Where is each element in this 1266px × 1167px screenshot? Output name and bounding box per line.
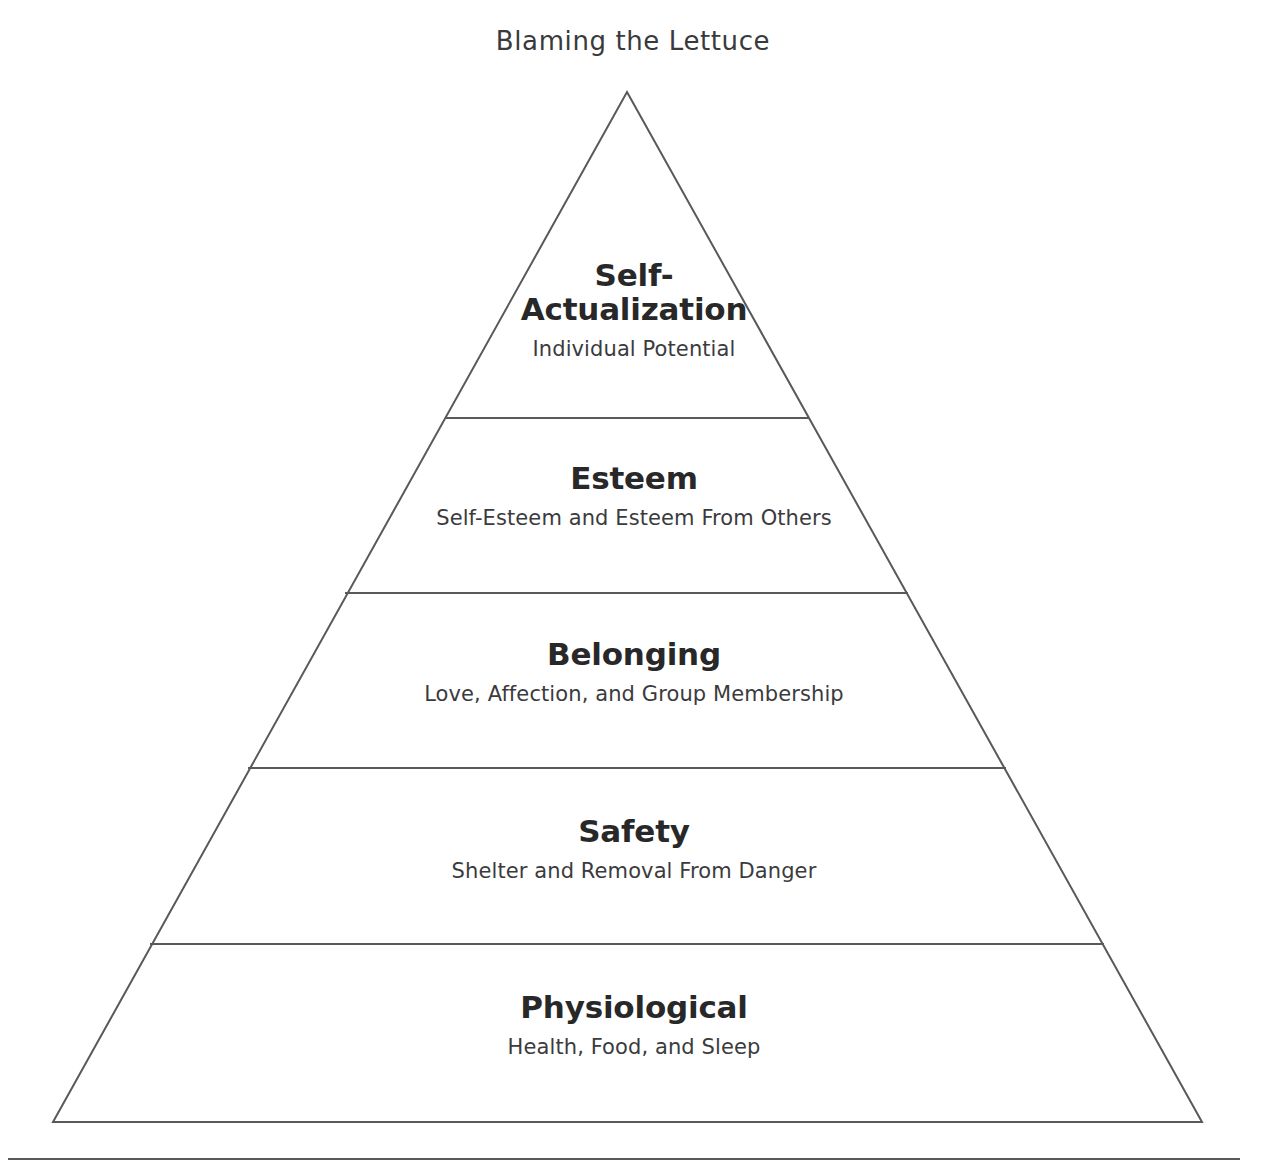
pyramid-level-physiological: Physiological Health, Food, and Sleep <box>0 991 1266 1060</box>
level-subtitle-esteem: Self-Esteem and Esteem From Others <box>1 506 1266 531</box>
pyramid-level-belonging: Belonging Love, Affection, and Group Mem… <box>0 638 1266 707</box>
level-heading-line-2: Actualization <box>1 292 1266 326</box>
pyramid-level-self-actualization: Self- Actualization Individual Potential <box>0 258 1266 362</box>
level-heading-physiological: Physiological <box>1 991 1266 1024</box>
pyramid-level-safety: Safety Shelter and Removal From Danger <box>0 815 1266 884</box>
pyramid-diagram-canvas: Blaming the Lettuce Self- Actualization … <box>0 0 1266 1167</box>
level-subtitle-self-actualization: Individual Potential <box>1 337 1266 362</box>
level-subtitle-physiological: Health, Food, and Sleep <box>1 1035 1266 1060</box>
pyramid-level-esteem: Esteem Self-Esteem and Esteem From Other… <box>0 462 1266 531</box>
level-heading-line-1: Self- <box>1 258 1266 292</box>
level-heading-esteem: Esteem <box>1 462 1266 495</box>
pyramid-outline <box>53 92 1202 1122</box>
level-heading-self-actualization: Self- Actualization <box>1 258 1266 326</box>
level-subtitle-belonging: Love, Affection, and Group Membership <box>1 682 1266 707</box>
level-subtitle-safety: Shelter and Removal From Danger <box>1 859 1266 884</box>
level-heading-belonging: Belonging <box>1 638 1266 671</box>
level-heading-safety: Safety <box>1 815 1266 848</box>
